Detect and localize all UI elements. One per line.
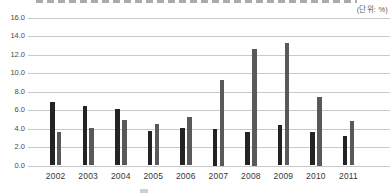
bar-gray-bars-2011 — [350, 121, 355, 165]
y-axis-tick-label: 8.0 — [0, 88, 25, 96]
bar-gray-bars-2003 — [89, 128, 94, 166]
bar-dark-bars-2003 — [83, 106, 88, 165]
x-axis-year-label: 2009 — [267, 171, 299, 181]
bar-gray-bars-2007 — [220, 80, 225, 166]
bar-dark-bars-2011 — [343, 136, 348, 166]
y-axis-tick-label: 6.0 — [0, 106, 25, 114]
bar-dark-bars-2006 — [180, 128, 185, 166]
bar-dark-bars-2002 — [50, 102, 55, 166]
bar-gray-bars-2008 — [252, 49, 257, 166]
x-axis-year-label: 2004 — [105, 171, 137, 181]
bar-gray-bars-2002 — [57, 132, 62, 165]
gridline-8.0 — [28, 92, 390, 93]
gridline-16.0 — [28, 18, 390, 19]
bar-gray-bars-2006 — [187, 117, 192, 165]
y-axis-tick-label: 10.0 — [0, 69, 25, 77]
y-axis-tick-label: 2.0 — [0, 143, 25, 151]
bar-gray-bars-2005 — [155, 124, 160, 166]
x-axis-year-label: 2010 — [300, 171, 332, 181]
bar-gray-bars-2004 — [122, 120, 127, 165]
gridline-0.0 — [28, 166, 390, 167]
gridline-12.0 — [28, 55, 390, 56]
x-axis-year-label: 2005 — [137, 171, 169, 181]
bar-chart-screenshot: (단위: %) 0.02.04.06.08.010.012.014.016.02… — [0, 0, 392, 194]
y-axis-tick-label: 14.0 — [0, 32, 25, 40]
y-axis-tick-label: 12.0 — [0, 51, 25, 59]
bar-chart-plot-area: 0.02.04.06.08.010.012.014.016.0200220032… — [0, 0, 392, 194]
bar-gray-bars-2009 — [285, 43, 290, 165]
bar-dark-bars-2005 — [148, 131, 153, 165]
x-axis-year-label: 2011 — [333, 171, 365, 181]
gridline-10.0 — [28, 73, 390, 74]
bar-dark-bars-2008 — [245, 132, 250, 165]
x-axis-year-label: 2006 — [170, 171, 202, 181]
x-axis-year-label: 2007 — [202, 171, 234, 181]
y-axis-tick-label: 4.0 — [0, 125, 25, 133]
bar-dark-bars-2009 — [278, 125, 283, 166]
gridline-14.0 — [28, 36, 390, 37]
cropped-legend-remnant — [140, 189, 148, 193]
y-axis-tick-label: 0.0 — [0, 162, 25, 170]
bar-dark-bars-2004 — [115, 109, 120, 165]
y-axis-tick-label: 16.0 — [0, 14, 25, 22]
x-axis-year-label: 2003 — [72, 171, 104, 181]
x-axis-year-label: 2008 — [235, 171, 267, 181]
bar-dark-bars-2010 — [310, 132, 315, 165]
bar-dark-bars-2007 — [213, 129, 218, 166]
x-axis-year-label: 2002 — [40, 171, 72, 181]
bar-gray-bars-2010 — [317, 97, 322, 166]
